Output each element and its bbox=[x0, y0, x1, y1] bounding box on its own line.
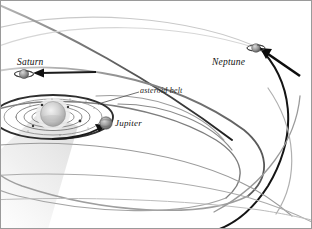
orbit-canvas bbox=[0, 0, 312, 229]
sun-sphere-icon bbox=[41, 102, 66, 127]
solar-system-diagram: Saturn Jupiter Neptune asteroid belt bbox=[0, 0, 312, 229]
planet-sphere-icon-jupiter bbox=[100, 117, 112, 129]
label-jupiter: Jupiter bbox=[115, 118, 142, 128]
label-saturn: Saturn bbox=[17, 57, 44, 67]
sun-group bbox=[36, 98, 70, 130]
planet-dot-mercury bbox=[41, 104, 44, 107]
orbit-pale-upper-arc bbox=[0, 28, 256, 48]
label-neptune: Neptune bbox=[212, 57, 245, 67]
asteroid-belt-leader-line bbox=[98, 92, 139, 104]
planet-dot-mars bbox=[32, 125, 34, 127]
planet-dot-venus bbox=[67, 106, 69, 108]
planet-dot-earth bbox=[79, 120, 82, 123]
ringed-planet-icon-saturn bbox=[15, 69, 34, 78]
label-asteroid-belt: asteroid belt bbox=[140, 86, 183, 95]
left-arrow-icon-neptune bbox=[260, 48, 300, 76]
sun-equator-shade bbox=[41, 115, 65, 121]
